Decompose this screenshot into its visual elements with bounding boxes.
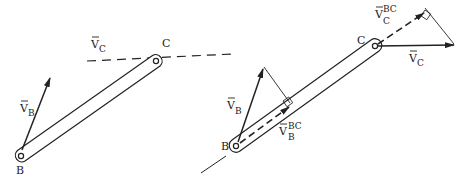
link-bc — [229, 39, 382, 153]
label-vc: V C — [408, 51, 424, 68]
svg-text:B: B — [28, 108, 35, 118]
svg-text:BC: BC — [383, 4, 397, 14]
label-c: C — [162, 37, 170, 50]
left-figure: C B V C V B — [15, 37, 232, 177]
svg-text:C: C — [99, 44, 106, 54]
vc-arrow — [377, 45, 454, 46]
svg-text:C: C — [383, 16, 390, 26]
label-vb: V B — [226, 98, 242, 116]
pin-b-icon — [233, 143, 238, 148]
bc-line-extension-lower — [201, 156, 226, 173]
svg-text:C: C — [417, 58, 424, 68]
pin-c-icon — [372, 43, 377, 48]
svg-text:V: V — [278, 125, 288, 138]
svg-text:B: B — [288, 132, 295, 142]
label-vc: V C — [90, 37, 106, 54]
vb-projection-line — [264, 67, 290, 103]
right-figure: B C V B V BC B V BC C V C — [201, 4, 454, 173]
label-vb: V B — [19, 101, 35, 118]
label-c: C — [357, 34, 365, 47]
label-vcbc: V BC C — [374, 4, 397, 26]
right-angle-marker-c — [421, 10, 431, 20]
pin-b-icon — [18, 153, 23, 158]
link-bc — [15, 55, 162, 162]
svg-text:BC: BC — [288, 121, 302, 131]
label-vbbc: V BC B — [278, 121, 302, 142]
label-b: B — [221, 140, 229, 153]
label-b: B — [16, 164, 24, 177]
svg-text:B: B — [235, 106, 242, 116]
pin-c-icon — [153, 58, 158, 63]
kinematics-diagram: C B V C V B B C — [0, 0, 468, 183]
